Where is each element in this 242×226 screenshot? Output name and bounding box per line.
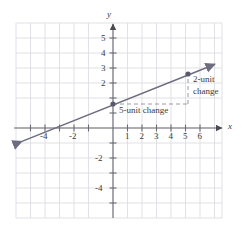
xtick-label-2: 2 xyxy=(140,131,145,141)
xtick-label-1: 1 xyxy=(125,131,130,141)
rise-change-label-line1: 2-unit xyxy=(193,74,215,85)
point-y-intercept xyxy=(110,101,115,106)
figure-container: x y -4 -2 1 2 3 4 5 6 5 4 3 2 -2 -4 5-un… xyxy=(0,0,242,226)
x-axis-label: x xyxy=(228,121,232,131)
ytick-label-minus4: -4 xyxy=(95,183,103,193)
ytick-label-minus2: -2 xyxy=(95,153,103,163)
ytick-label-5: 5 xyxy=(101,33,106,43)
xtick-label-6: 6 xyxy=(198,131,203,141)
y-axis xyxy=(110,24,117,218)
run-change-label: 5-unit change xyxy=(119,105,168,116)
grid-lines xyxy=(16,23,222,218)
ytick-label-3: 3 xyxy=(101,63,106,73)
slope-triangle-dashed xyxy=(113,74,188,104)
y-axis-label: y xyxy=(107,9,111,19)
xtick-label-minus2: -2 xyxy=(69,131,77,141)
xtick-label-minus4: -4 xyxy=(40,131,48,141)
ytick-label-4: 4 xyxy=(101,48,106,58)
rise-change-label-line2: change xyxy=(193,86,218,97)
ytick-label-2: 2 xyxy=(101,78,106,88)
point-second xyxy=(185,71,190,76)
xtick-label-5: 5 xyxy=(183,131,188,141)
xtick-label-3: 3 xyxy=(154,131,159,141)
xtick-label-4: 4 xyxy=(169,131,174,141)
